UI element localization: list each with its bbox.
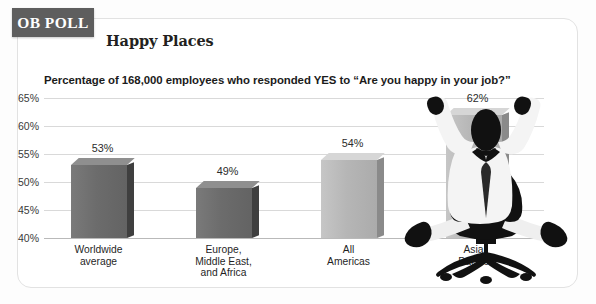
y-axis-tick-label: 45% — [18, 204, 39, 216]
ob-poll-badge: OB POLL — [12, 8, 94, 37]
bar-face-top — [196, 181, 260, 188]
category-label-line: Americas — [327, 256, 370, 268]
category-label-line: average — [75, 256, 123, 268]
bar-face-front — [196, 188, 252, 238]
bar-value-label: 53% — [92, 142, 114, 154]
y-axis-tick-label: 50% — [18, 176, 39, 188]
bar-face-side — [252, 185, 259, 238]
bar-face-front — [321, 160, 377, 238]
page-title: Happy Places — [106, 32, 214, 49]
bar-face-side — [127, 162, 134, 238]
y-axis-tick-label: 60% — [18, 120, 39, 132]
chart-bar — [196, 188, 252, 238]
category-label-line: and Africa — [195, 267, 252, 279]
bar-face-side — [377, 157, 384, 238]
bar-value-label: 49% — [217, 165, 239, 177]
x-axis-category-label: Europe,Middle East,and Africa — [195, 244, 252, 279]
y-axis-tick-label: 40% — [18, 232, 39, 244]
chart-bar — [321, 160, 377, 238]
y-axis-tick-label: 65% — [18, 92, 39, 104]
bar-value-label: 54% — [342, 137, 364, 149]
category-label-line: Middle East, — [195, 256, 252, 268]
poll-infographic: OB POLL Happy Places Percentage of 168,0… — [0, 0, 596, 304]
x-axis-category-label: AllAmericas — [327, 244, 370, 267]
y-axis-tick-label: 55% — [18, 148, 39, 160]
bar-face-top — [71, 158, 135, 165]
category-label-line: Worldwide — [75, 244, 123, 256]
category-label-line: Europe, — [195, 244, 252, 256]
x-axis-category-label: Worldwideaverage — [75, 244, 123, 267]
chart-subtitle: Percentage of 168,000 employees who resp… — [44, 74, 511, 86]
bar-face-front — [71, 165, 127, 238]
chart-bar — [71, 165, 127, 238]
cheering-office-worker-silhouette — [392, 96, 578, 286]
bar-face-top — [321, 153, 385, 160]
ob-poll-badge-label: OB POLL — [17, 14, 88, 32]
category-label-line: All — [327, 244, 370, 256]
